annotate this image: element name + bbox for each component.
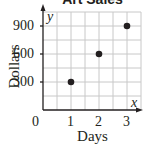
data-point xyxy=(124,23,131,30)
data-point xyxy=(96,51,103,58)
data-point xyxy=(68,79,75,86)
x-axis-variable: x xyxy=(131,95,137,111)
x-tick-label: 0 xyxy=(32,114,39,130)
y-axis-arrow-icon xyxy=(41,4,46,11)
y-axis-label: Dollars xyxy=(6,39,23,95)
y-tick-label: 900 xyxy=(13,18,34,34)
y-axis-variable: y xyxy=(47,9,53,25)
x-axis-label: Days xyxy=(40,128,145,145)
